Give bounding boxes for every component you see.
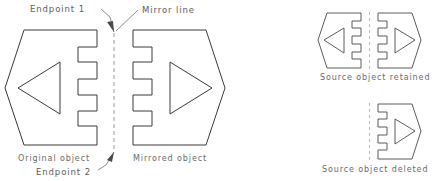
mirror-line-leader-line: [116, 10, 138, 31]
mirror-line-leader-group: [116, 10, 138, 31]
mirror-diagram-figure: Endpoint 1 Mirror line Endpoint 2 Origin…: [0, 0, 440, 181]
retained-mirrored-inner-triangle: [395, 28, 415, 53]
mirror-line-label: Mirror line: [142, 5, 195, 15]
retained-source-inner-triangle: [324, 28, 344, 53]
deleted-mirrored-inner-triangle: [395, 119, 415, 144]
mirrored-object-group: [133, 30, 225, 145]
retained-right-object-group: [378, 13, 421, 68]
deleted-caption: Source object deleted: [322, 165, 428, 174]
original-object-caption: Original object: [18, 154, 90, 163]
deleted-right-object-group: [378, 104, 421, 159]
mirrored-object-caption: Mirrored object: [133, 154, 207, 163]
endpoint1-leader-group: [101, 9, 114, 32]
original-object-inner-triangle: [18, 62, 60, 114]
endpoint2-label: Endpoint 2: [36, 167, 91, 177]
diagram-canvas: Endpoint 1 Mirror line Endpoint 2 Origin…: [0, 0, 440, 181]
retained-caption: Source object retained: [320, 73, 430, 82]
endpoint2-arrowhead: [107, 152, 114, 162]
original-object-group: [5, 30, 97, 145]
retained-left-object-group: [318, 13, 361, 68]
endpoint2-leader-group: [98, 152, 114, 170]
endpoint1-label: Endpoint 1: [30, 4, 85, 14]
endpoint1-arrowhead: [107, 21, 114, 32]
mirrored-object-inner-triangle: [170, 62, 212, 114]
